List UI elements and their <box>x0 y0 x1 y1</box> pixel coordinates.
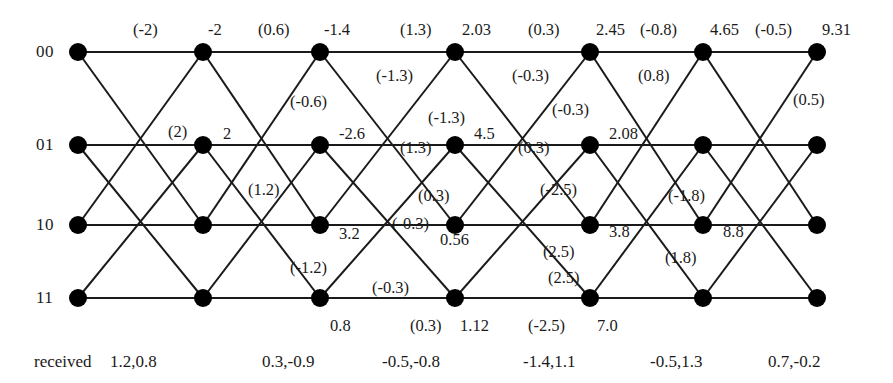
trellis-node <box>581 136 599 154</box>
path-metric-label: 3.2 <box>339 224 360 244</box>
trellis-diagram-figure: 00011011 -2-1.42.032.454.659.312-2.64.52… <box>0 0 893 383</box>
path-metric-label: 2 <box>223 124 231 144</box>
path-metric-label: 4.5 <box>474 124 495 144</box>
branch-metric-label: (-2.5) <box>528 316 565 336</box>
trellis-node <box>311 136 329 154</box>
path-metric-label: 2.45 <box>596 20 625 40</box>
trellis-node <box>808 216 826 234</box>
state-label-00: 00 <box>36 42 54 62</box>
received-value-label: -0.5,-0.8 <box>382 352 440 372</box>
trellis-node <box>194 216 212 234</box>
trellis-node <box>808 43 826 61</box>
trellis-node <box>446 289 464 307</box>
trellis-node <box>69 136 87 154</box>
branch-metric-label: (-1.2) <box>290 258 327 278</box>
path-metric-label: 2.08 <box>609 124 638 144</box>
branch-metric-label: (-0.5) <box>755 20 792 40</box>
branch-metric-label: (-0.3) <box>552 100 589 120</box>
branch-metric-label: (1.3) <box>400 138 432 158</box>
state-label-11: 11 <box>36 288 53 308</box>
state-label-01: 01 <box>36 135 54 155</box>
trellis-node <box>694 43 712 61</box>
branch-metric-label: (0.3) <box>518 138 550 158</box>
trellis-node <box>69 43 87 61</box>
trellis-node <box>446 136 464 154</box>
branch-metric-label: (0.3) <box>528 20 560 40</box>
branch-metric-label: (-0.3) <box>372 278 409 298</box>
trellis-node <box>694 136 712 154</box>
branch-metric-label: (-1.3) <box>428 108 465 128</box>
received-value-label: -0.5,1.3 <box>650 352 702 372</box>
trellis-node <box>311 43 329 61</box>
branch-metric-label: (-1.8) <box>668 186 705 206</box>
branch-metric-label: (1.8) <box>665 248 697 268</box>
branch-metric-label: (1.2) <box>248 180 280 200</box>
branch-metric-label: (1.3) <box>400 20 432 40</box>
branch-metric-label: (-0.3) <box>392 214 429 234</box>
trellis-node <box>194 136 212 154</box>
path-metric-label: 1.12 <box>460 316 489 336</box>
trellis-node <box>808 289 826 307</box>
branch-metric-label: (0.3) <box>418 186 450 206</box>
path-metric-label: 2.03 <box>462 20 491 40</box>
received-caption: received <box>34 352 92 372</box>
received-value-label: 0.7,-0.2 <box>768 352 820 372</box>
branch-metric-label: (-0.3) <box>512 66 549 86</box>
path-metric-label: 7.0 <box>597 316 618 336</box>
branch-metric-label: (2) <box>168 122 187 142</box>
trellis-node <box>446 43 464 61</box>
path-metric-label: -2.6 <box>339 124 365 144</box>
branch-metric-label: (0.3) <box>410 316 442 336</box>
received-value-label: 1.2,0.8 <box>110 352 157 372</box>
trellis-node <box>581 289 599 307</box>
state-label-10: 10 <box>36 215 54 235</box>
branch-metric-label: (0.6) <box>258 20 290 40</box>
path-metric-label: -1.4 <box>324 20 350 40</box>
trellis-node <box>581 43 599 61</box>
path-metric-label: 4.65 <box>710 20 739 40</box>
trellis-node <box>694 216 712 234</box>
path-metric-label: 8.8 <box>723 222 744 242</box>
path-metric-label: 0.56 <box>440 230 469 250</box>
branch-metric-label: (-2) <box>133 20 158 40</box>
trellis-node <box>194 289 212 307</box>
trellis-node <box>194 43 212 61</box>
trellis-node <box>69 289 87 307</box>
branch-metric-label: (2.5) <box>548 268 580 288</box>
path-metric-label: 0.8 <box>330 316 351 336</box>
branch-metric-label: (-0.8) <box>640 20 677 40</box>
branch-metric-label: (0.8) <box>638 66 670 86</box>
trellis-node <box>311 216 329 234</box>
branch-metric-label: (-0.6) <box>290 92 327 112</box>
trellis-node <box>808 136 826 154</box>
trellis-node <box>694 289 712 307</box>
path-metric-label: 9.31 <box>822 20 851 40</box>
branch-metric-label: (-2.5) <box>540 180 577 200</box>
received-value-label: -1.4,1.1 <box>523 352 575 372</box>
branch-metric-label: (0.5) <box>793 90 825 110</box>
branch-metric-label: (2.5) <box>543 242 575 262</box>
trellis-node <box>581 216 599 234</box>
received-value-label: 0.3,-0.9 <box>262 352 314 372</box>
branch-metric-label: (-1.3) <box>376 66 413 86</box>
trellis-node <box>69 216 87 234</box>
path-metric-label: -2 <box>208 20 222 40</box>
trellis-nodes <box>69 43 826 307</box>
path-metric-label: 3.8 <box>609 222 630 242</box>
trellis-edges <box>78 52 817 298</box>
trellis-node <box>311 289 329 307</box>
